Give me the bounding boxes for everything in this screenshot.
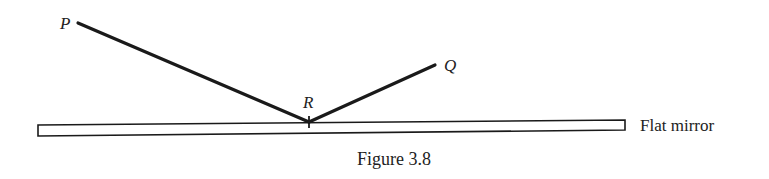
flat-mirror [38,120,625,136]
incident-ray [78,23,309,122]
mirror-label: Flat mirror [640,116,714,135]
reflected-ray [309,65,435,122]
figure-caption: Figure 3.8 [357,149,431,169]
point-label-q: Q [444,56,456,75]
reflection-diagram: P Q R Flat mirror Figure 3.8 [0,0,769,179]
point-label-r: R [302,93,314,112]
point-label-p: P [59,14,70,33]
